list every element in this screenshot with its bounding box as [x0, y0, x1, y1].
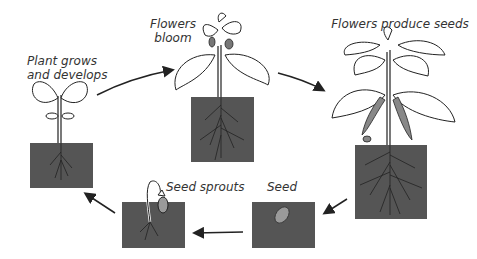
- stem-icon: [58, 95, 61, 143]
- label-seed-sprouts: Seed sprouts: [166, 180, 242, 194]
- stem-icon: [387, 50, 390, 145]
- label-seed: Seed: [262, 180, 302, 194]
- soil-flowers-bloom: [191, 97, 254, 162]
- label-line: bloom: [148, 31, 198, 45]
- label-flowers-bloom: Flowers bloom: [148, 17, 198, 45]
- stem-icon: [218, 45, 221, 97]
- life-cycle-diagram: [0, 0, 477, 259]
- label-line: and develops: [27, 68, 97, 82]
- arrow-icon: [86, 194, 115, 213]
- soil-produce-seeds: [355, 145, 427, 219]
- leaf-icon: [332, 27, 455, 122]
- arrow-icon: [97, 70, 172, 95]
- label-plant-grows: Plant grows and develops: [27, 54, 97, 82]
- arrow-icon: [325, 199, 347, 213]
- arrow-icon: [278, 73, 323, 90]
- label-line: Plant grows: [27, 54, 97, 68]
- soil-plant-grows: [30, 143, 93, 188]
- leaf-icon: [32, 82, 87, 119]
- label-line: Flowers: [148, 17, 198, 31]
- arrow-icon: [195, 232, 243, 233]
- label-flowers-produce-seeds: Flowers produce seeds: [325, 17, 475, 31]
- soil-seed-sprouts: [122, 202, 185, 248]
